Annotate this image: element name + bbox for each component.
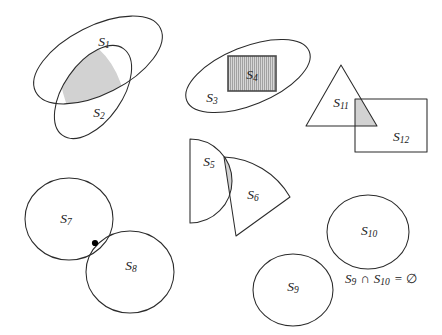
label-s5: S5 xyxy=(203,154,215,170)
s1-s2-intersection xyxy=(39,32,147,152)
group-disjoint-circles: S9 S10 S9∩S10=∅ xyxy=(253,195,417,326)
label-s6: S6 xyxy=(247,187,259,203)
label-s11: S11 xyxy=(333,95,349,111)
tangency-point-dot xyxy=(92,240,98,246)
group-triangle-rectangle: S11 S12 xyxy=(306,65,427,152)
label-s7: S7 xyxy=(60,211,73,227)
group-tangent-circles: S7 S8 xyxy=(25,178,174,313)
label-s8: S8 xyxy=(125,258,137,274)
group-overlapping-ellipses: S1 S2 xyxy=(20,0,176,152)
group-containment: S3 S4 xyxy=(176,24,320,127)
label-s9: S9 xyxy=(287,279,299,295)
disjoint-annotation: S9∩S10=∅ xyxy=(345,271,417,287)
label-s2: S2 xyxy=(93,105,105,121)
set-diagram-figure: S1 S2 S3 S4 S11 S12 S5 xyxy=(0,0,442,335)
set-s5-halfdisc xyxy=(190,139,232,223)
label-s3: S3 xyxy=(206,90,218,106)
group-overlapping-sectors: S5 S6 xyxy=(190,139,290,236)
label-s1: S1 xyxy=(98,34,110,50)
s1-s2-intersection-shading xyxy=(39,32,147,152)
diagram-canvas: S1 S2 S3 S4 S11 S12 S5 xyxy=(0,0,442,335)
label-s12: S12 xyxy=(393,129,410,145)
label-s10: S10 xyxy=(361,223,378,239)
